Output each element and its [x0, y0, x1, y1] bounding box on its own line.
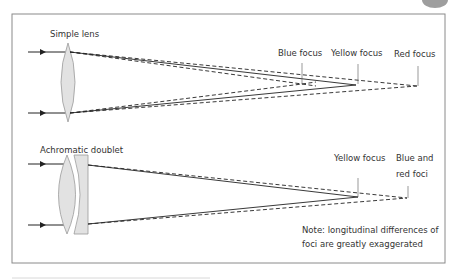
achromatic-doublet-title: Achromatic doublet: [40, 145, 124, 155]
doublet-crown-element: [59, 155, 76, 234]
doublet-flint-element: [74, 155, 88, 234]
chromatic-aberration-diagram: Simple lens Blue focus Yellow focus Red …: [0, 0, 462, 279]
doublet-yellow-focus-label: Yellow focus: [333, 153, 386, 163]
yellow-focus-label: Yellow focus: [330, 48, 383, 58]
note-line-2: foci are greatly exaggerated: [302, 239, 423, 249]
arrow-icon: [40, 110, 46, 116]
red-focus-label: Red focus: [394, 49, 436, 59]
note-line-1: Note: longitudinal differences of: [302, 225, 440, 235]
doublet-blue-red-label-line2: red foci: [396, 169, 428, 179]
achromatic-doublet-group: Achromatic doublet Yellow focus Blue and…: [28, 145, 440, 249]
simple-lens-shape: [61, 43, 75, 122]
simple-lens-group: Simple lens Blue focus Yellow focus Red …: [28, 29, 436, 122]
arrow-icon: [40, 161, 46, 167]
arrow-icon: [40, 49, 46, 55]
corner-tab-icon: [422, 0, 448, 8]
blue-focus-label: Blue focus: [278, 48, 323, 58]
simple-lens-title: Simple lens: [50, 29, 100, 39]
doublet-blue-red-label-line1: Blue and: [396, 153, 434, 163]
arrow-icon: [40, 222, 46, 228]
